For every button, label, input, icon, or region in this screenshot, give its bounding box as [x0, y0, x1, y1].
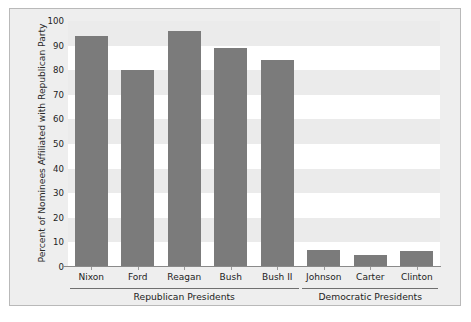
y-axis-tick-labels: 1009080706050403020100: [40, 18, 64, 270]
y-axis-tick-30: 30: [40, 189, 64, 198]
group-label-0: Republican Presidents: [70, 291, 299, 303]
y-axis-tick-20: 20: [40, 213, 64, 222]
y-axis-tick-90: 90: [40, 41, 64, 50]
bar-clinton: [400, 251, 433, 267]
bar-johnson: [307, 250, 340, 267]
group-label-1: Democratic Presidents: [302, 291, 438, 303]
bar-bush-ii: [261, 60, 294, 267]
y-axis-tick-80: 80: [40, 66, 64, 75]
group-rule-0: [70, 288, 299, 289]
y-axis-tick-0: 0: [40, 263, 64, 272]
y-axis-tick-50: 50: [40, 140, 64, 149]
x-axis-tickmark: [277, 267, 278, 270]
plot-area: [68, 21, 440, 267]
x-axis-tickmark: [231, 267, 232, 270]
y-axis-tick-60: 60: [40, 115, 64, 124]
bar-ford: [121, 70, 154, 267]
y-axis-tick-10: 10: [40, 238, 64, 247]
x-axis-tickmark: [138, 267, 139, 270]
figure: Percent of Nominees Affiliated with Repu…: [0, 0, 471, 322]
x-axis-tickmark: [324, 267, 325, 270]
x-axis-tickmark: [91, 267, 92, 270]
y-axis-tick-40: 40: [40, 164, 64, 173]
grid-band: [68, 21, 440, 46]
bar-reagan: [168, 31, 201, 267]
x-axis-tickmark: [370, 267, 371, 270]
y-axis-tick-70: 70: [40, 90, 64, 99]
x-axis-label-clinton: Clinton: [377, 272, 457, 283]
x-axis-baseline: [62, 266, 441, 267]
y-axis-tick-100: 100: [40, 17, 64, 26]
group-rule-1: [302, 288, 438, 289]
bar-nixon: [75, 36, 108, 267]
x-axis-tickmark: [417, 267, 418, 270]
x-axis-tickmark: [184, 267, 185, 270]
bar-bush: [214, 48, 247, 267]
